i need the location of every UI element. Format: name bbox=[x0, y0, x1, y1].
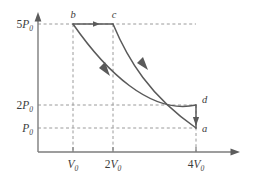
process-c-to-a bbox=[113, 24, 196, 128]
guide-lines bbox=[38, 24, 196, 152]
y-tick-label-2p0-symbol: P bbox=[21, 99, 29, 111]
x-tick-label-v0-sub: 0 bbox=[75, 164, 79, 173]
x-axis-ticks bbox=[73, 147, 196, 152]
y-tick-label-2p0-sub: 0 bbox=[29, 105, 33, 114]
arrowhead-b-to-c bbox=[93, 21, 100, 26]
y-tick-label-5p0-symbol: P bbox=[21, 18, 29, 30]
x-tick-label-2v0-sub: 0 bbox=[117, 164, 121, 173]
y-tick-label-5p0-sub: 0 bbox=[29, 24, 33, 33]
pv-diagram-canvas: 5P0 2P0 P0 V0 2V0 4V0 b c d a bbox=[0, 0, 254, 175]
y-tick-label-2p0: 2P0 bbox=[16, 99, 33, 114]
point-label-d: d bbox=[202, 94, 208, 105]
axes bbox=[35, 12, 240, 155]
point-label-b: b bbox=[70, 9, 75, 20]
x-tick-label-4v0-sub: 0 bbox=[200, 164, 204, 173]
arrowhead-c-to-a bbox=[99, 62, 110, 76]
x-axis-arrowhead bbox=[231, 149, 241, 156]
y-tick-label-p0-sub: 0 bbox=[29, 128, 33, 137]
point-label-a: a bbox=[202, 123, 207, 134]
x-tick-label-2v0: 2V0 bbox=[105, 158, 122, 173]
x-tick-label-v0: V0 bbox=[68, 158, 79, 173]
arrowhead-d-to-c bbox=[137, 57, 148, 70]
arrowhead-d-to-a bbox=[193, 117, 199, 126]
y-tick-label-p0-symbol: P bbox=[21, 122, 29, 134]
y-tick-label-p0: P0 bbox=[21, 122, 33, 137]
process-paths bbox=[73, 21, 199, 128]
y-axis-arrowhead bbox=[35, 12, 42, 22]
x-axis-labels: V0 2V0 4V0 bbox=[68, 158, 205, 173]
y-tick-label-5p0: 5P0 bbox=[16, 18, 33, 33]
point-label-c: c bbox=[112, 9, 117, 20]
x-tick-label-4v0: 4V0 bbox=[188, 158, 205, 173]
pv-diagram-figure: 5P0 2P0 P0 V0 2V0 4V0 b c d a bbox=[0, 0, 254, 175]
y-axis-labels: 5P0 2P0 P0 bbox=[16, 18, 33, 137]
